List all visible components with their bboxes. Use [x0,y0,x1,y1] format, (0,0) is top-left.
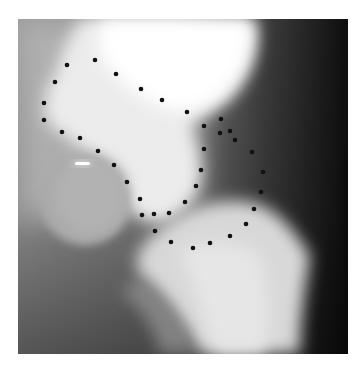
landmark-dot [112,163,117,168]
landmark-dot [208,241,213,246]
landmark-dot [259,190,264,195]
landmark-dot [202,124,207,129]
landmark-dot [125,180,130,185]
landmark-dot [140,213,145,218]
landmark-dot [93,58,98,63]
landmark-dot [53,80,58,85]
landmark-dot [261,170,266,175]
landmark-dot [160,98,165,103]
landmark-dot [138,197,143,202]
landmark-dot [169,240,174,245]
landmark-dot [96,149,101,154]
landmark-dot [114,72,119,77]
landmark-dot [228,234,233,239]
landmark-dot [228,129,233,134]
landmark-dot [139,87,144,92]
landmark-dot [250,150,255,155]
landmark-dot [244,222,249,227]
xray-image [18,19,348,354]
landmark-dot [153,229,158,234]
landmark-dot [194,184,199,189]
landmark-dot [199,168,204,173]
landmark-dot [233,138,238,143]
landmark-dot [252,207,257,212]
landmark-dot [218,131,223,136]
landmark-dot [42,101,47,106]
xray-svg [18,19,348,354]
landmark-dot [167,211,172,216]
landmark-dot [65,63,70,68]
landmark-dot [152,212,157,217]
landmark-dot [191,246,196,251]
landmark-dot [78,136,83,141]
landmark-dot [219,117,224,122]
landmark-dot [60,130,65,135]
landmark-dot [202,147,207,152]
landmark-dot [42,118,47,123]
landmark-dot [183,200,188,205]
landmark-dot [185,110,190,115]
